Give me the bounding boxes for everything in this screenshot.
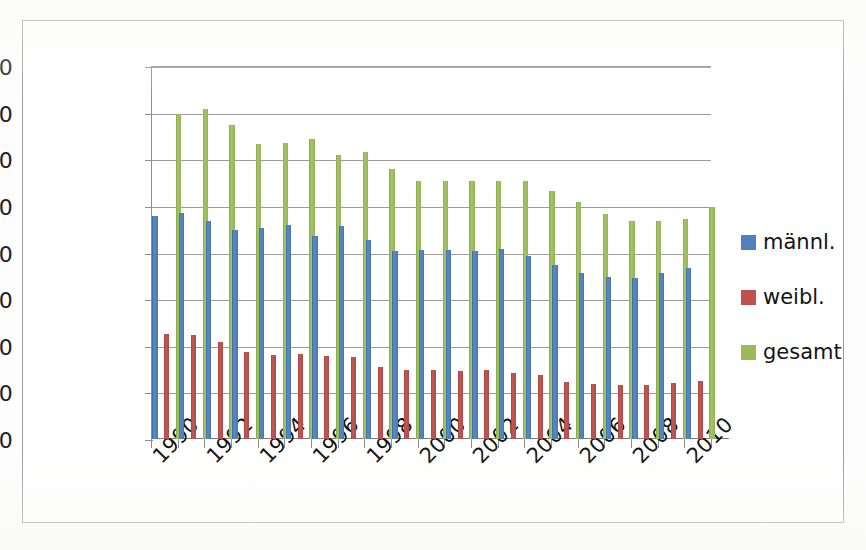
- legend-item-weibl[interactable]: weibl.: [741, 286, 861, 308]
- legend-label: gesamt: [763, 340, 842, 364]
- bar-group: [419, 67, 446, 439]
- bar-mnnl-1995: [286, 225, 291, 439]
- bar-group: [312, 67, 339, 439]
- y-axis-tick-label: 14000: [0, 101, 13, 126]
- legend-swatch-icon: [741, 235, 756, 250]
- bar-weibl-2010: [698, 381, 703, 439]
- bar-weibl-2004: [538, 375, 543, 439]
- legend-swatch-icon: [741, 290, 756, 305]
- plot-area: 1600014000120001000080006000400020000: [151, 66, 711, 439]
- y-axis-tick-label: 10000: [0, 194, 13, 219]
- bar-mnnl-1997: [339, 226, 344, 439]
- y-axis-tick-label: 6000: [0, 288, 13, 313]
- y-axis-tick-label: 8000: [0, 241, 13, 266]
- bar-group: [285, 67, 312, 439]
- bar-group: [579, 67, 606, 439]
- bar-mnnl-1990: [152, 216, 157, 439]
- bar-weibl-1993: [244, 352, 249, 439]
- bar-mnnl-2001: [446, 250, 451, 439]
- bar-weibl-1992: [218, 342, 223, 439]
- bar-mnnl-1994: [259, 228, 264, 439]
- y-axis-tick-label: 0: [0, 428, 13, 453]
- bar-group: [632, 67, 659, 439]
- bar-weibl-2001: [458, 371, 463, 439]
- legend-label: männl.: [763, 230, 835, 254]
- bar-weibl-1995: [298, 354, 303, 439]
- bar-mnnl-1996: [312, 236, 317, 439]
- bar-weibl-1999: [404, 370, 409, 439]
- bar-mnnl-2000: [419, 250, 424, 439]
- chart-legend: männl.weibl.gesamt: [741, 231, 861, 396]
- x-axis-labels: 1990199219941996199820002002200420062008…: [151, 451, 729, 521]
- legend-swatch-icon: [741, 345, 756, 360]
- bar-mnnl-2007: [606, 277, 611, 439]
- chart-frame: 1600014000120001000080006000400020000 19…: [22, 20, 844, 523]
- bar-group: [152, 67, 179, 439]
- bar-mnnl-2003: [499, 249, 504, 439]
- bar-mnnl-2004: [526, 256, 531, 439]
- bar-mnnl-1998: [366, 240, 371, 439]
- bar-mnnl-1992: [206, 221, 211, 439]
- bar-weibl-2005: [564, 382, 569, 439]
- bar-weibl-1991: [191, 335, 196, 439]
- bar-group: [472, 67, 499, 439]
- bar-group: [605, 67, 632, 439]
- bar-mnnl-2009: [659, 273, 664, 439]
- bar-gesamt-2010: [709, 207, 714, 439]
- bar-mnnl-1999: [392, 251, 397, 439]
- bar-mnnl-2008: [632, 278, 637, 439]
- bar-weibl-2002: [484, 370, 489, 439]
- bar-weibl-1997: [351, 357, 356, 439]
- bar-group: [499, 67, 526, 439]
- bar-weibl-2003: [511, 373, 516, 439]
- bar-weibl-1998: [378, 367, 383, 439]
- bar-weibl-1990: [164, 334, 169, 439]
- legend-item-gesamt[interactable]: gesamt: [741, 341, 861, 363]
- y-axis-tick-label: 12000: [0, 148, 13, 173]
- plot-inner: 1600014000120001000080006000400020000: [152, 67, 711, 439]
- bar-group: [365, 67, 392, 439]
- bar-mnnl-2005: [552, 265, 557, 439]
- bar-weibl-2009: [671, 383, 676, 439]
- bar-group: [525, 67, 552, 439]
- bar-weibl-1996: [324, 356, 329, 439]
- bar-mnnl-1993: [232, 230, 237, 439]
- legend-item-mnnl[interactable]: männl.: [741, 231, 861, 253]
- bar-group: [339, 67, 366, 439]
- bar-weibl-2006: [591, 384, 596, 439]
- bar-group: [179, 67, 206, 439]
- bar-mnnl-1991: [179, 213, 184, 439]
- bar-weibl-2000: [431, 370, 436, 439]
- bar-group: [232, 67, 259, 439]
- bar-group: [259, 67, 286, 439]
- y-axis-tick-label: 16000: [0, 55, 13, 80]
- bar-mnnl-2006: [579, 273, 584, 439]
- bar-group: [445, 67, 472, 439]
- bar-mnnl-2002: [472, 251, 477, 439]
- bar-group: [205, 67, 232, 439]
- y-axis-tick-label: 2000: [0, 381, 13, 406]
- legend-label: weibl.: [763, 285, 825, 309]
- bar-weibl-1994: [271, 355, 276, 439]
- bar-group: [392, 67, 419, 439]
- bar-mnnl-2010: [686, 268, 691, 439]
- bar-weibl-2008: [644, 385, 649, 439]
- bar-weibl-2007: [618, 385, 623, 439]
- y-axis-tick-label: 4000: [0, 334, 13, 359]
- bar-group: [685, 67, 712, 439]
- bar-group: [659, 67, 686, 439]
- bar-group: [552, 67, 579, 439]
